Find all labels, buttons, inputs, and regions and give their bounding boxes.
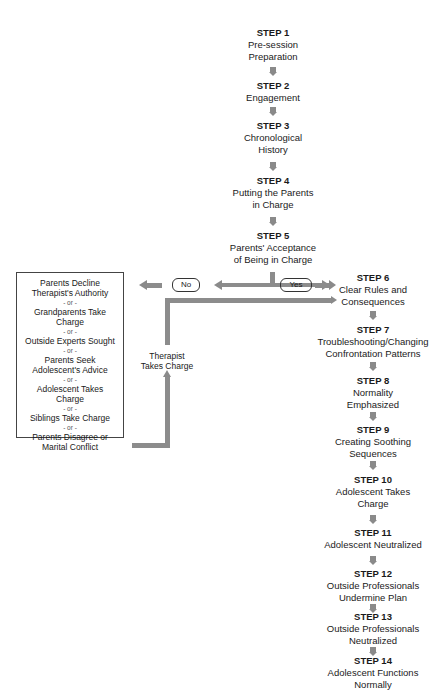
down-arrow-icon <box>369 515 377 524</box>
step-text: Chronological History <box>223 132 323 156</box>
step-7: STEP 7 Troubleshooting/Changing Confront… <box>308 324 438 360</box>
down-arrow-icon <box>369 412 377 421</box>
therapist-takes-charge-label: Therapist Takes Charge <box>136 351 198 371</box>
alt-item: Parents Decline Therapist's Authority <box>17 278 123 298</box>
step-text: Pre-session Preparation <box>223 39 323 63</box>
down-arrow-icon <box>369 556 377 565</box>
loop-vertical-upper <box>165 298 170 345</box>
step-2: STEP 2 Engagement <box>223 80 323 104</box>
down-arrow-icon <box>269 67 277 76</box>
step-text: Parents' Acceptance of Being in Charge <box>208 242 338 266</box>
step-4: STEP 4 Putting the Parents in Charge <box>213 175 333 211</box>
step-number: STEP 2 <box>223 80 323 92</box>
step-text: Normality Emphasized <box>323 387 423 411</box>
step-number: STEP 4 <box>213 175 333 187</box>
or-separator: - or - <box>17 327 123 336</box>
or-separator: - or - <box>17 298 123 307</box>
step-13: STEP 13 Outside Professionals Neutralize… <box>313 611 433 647</box>
down-arrow-icon <box>269 107 277 116</box>
alternatives-box: Parents Decline Therapist's Authority - … <box>16 272 124 438</box>
step-number: STEP 7 <box>308 324 438 336</box>
down-arrow-icon <box>369 311 377 320</box>
loop-vertical-lower <box>165 377 170 448</box>
step-text: Engagement <box>223 92 323 104</box>
down-arrow-icon <box>269 217 277 226</box>
step-12: STEP 12 Outside Professionals Undermine … <box>313 568 433 604</box>
step-text: Putting the Parents in Charge <box>213 187 333 211</box>
step-text: Creating Soothing Sequences <box>318 436 428 460</box>
step-number: STEP 12 <box>313 568 433 580</box>
step-number: STEP 5 <box>208 230 338 242</box>
step-text: Adolescent Neutralized <box>313 539 433 551</box>
step-text: Adolescent Takes Charge <box>318 486 428 510</box>
step-11: STEP 11 Adolescent Neutralized <box>313 527 433 551</box>
down-arrow-icon <box>369 362 377 371</box>
step-text: Clear Rules and Consequences <box>318 284 428 308</box>
step-number: STEP 3 <box>223 120 323 132</box>
step-text: Outside Professionals Neutralized <box>313 623 433 647</box>
step-number: STEP 13 <box>313 611 433 623</box>
loop-top-horizontal <box>165 298 331 303</box>
loop-up-arrowhead-icon <box>163 370 171 377</box>
step-text: Troubleshooting/Changing Confrontation P… <box>308 336 438 360</box>
alt-item: Parents Disagree or Marital Conflict <box>17 432 123 452</box>
alt-item: Grandparents Take Charge <box>17 307 123 327</box>
no-arrowhead-icon <box>139 280 147 290</box>
or-separator: - or - <box>17 404 123 413</box>
step-number: STEP 14 <box>313 655 433 667</box>
or-separator: - or - <box>17 423 123 432</box>
step-9: STEP 9 Creating Soothing Sequences <box>318 424 428 460</box>
step-6: STEP 6 Clear Rules and Consequences <box>318 272 428 308</box>
alt-item: Adolescent Takes Charge <box>17 384 123 404</box>
step-3: STEP 3 Chronological History <box>223 120 323 156</box>
step-number: STEP 8 <box>323 375 423 387</box>
down-arrow-icon <box>269 162 277 171</box>
no-arrow-shaft <box>146 283 162 288</box>
step-14: STEP 14 Adolescent Functions Normally <box>313 655 433 691</box>
alt-item: Parents Seek Adolescent's Advice <box>17 355 123 375</box>
step-number: STEP 1 <box>223 27 323 39</box>
step-text: Adolescent Functions Normally <box>313 667 433 691</box>
step-number: STEP 9 <box>318 424 428 436</box>
step-1: STEP 1 Pre-session Preparation <box>223 27 323 63</box>
step-5: STEP 5 Parents' Acceptance of Being in C… <box>208 230 338 266</box>
or-separator: - or - <box>17 375 123 384</box>
step-10: STEP 10 Adolescent Takes Charge <box>318 474 428 510</box>
no-label: No <box>172 278 200 292</box>
step-number: STEP 10 <box>318 474 428 486</box>
yes-label: Yes <box>280 278 312 292</box>
alt-item: Siblings Take Charge <box>17 413 123 423</box>
alt-item: Outside Experts Sought <box>17 336 123 346</box>
loop-bottom-horizontal <box>132 443 169 448</box>
left-arrowhead-icon <box>214 280 222 290</box>
step-8: STEP 8 Normality Emphasized <box>323 375 423 411</box>
step-number: STEP 6 <box>318 272 428 284</box>
step-number: STEP 11 <box>313 527 433 539</box>
or-separator: - or - <box>17 346 123 355</box>
down-arrow-icon <box>369 461 377 470</box>
step-text: Outside Professionals Undermine Plan <box>313 580 433 604</box>
